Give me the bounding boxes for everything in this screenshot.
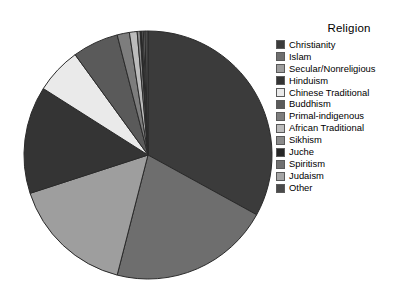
legend-swatch-icon	[276, 100, 285, 109]
legend-swatch-icon	[276, 124, 285, 133]
legend-item-list: ChristianityIslamSecular/NonreligiousHin…	[276, 39, 402, 194]
legend-item-label: Hinduism	[289, 76, 328, 86]
legend-item-label: Secular/Nonreligious	[289, 64, 376, 74]
legend-swatch-icon	[276, 160, 285, 169]
legend-item[interactable]: Primal-indigenous	[276, 111, 402, 123]
legend-item[interactable]: Sikhism	[276, 135, 402, 147]
legend-swatch-icon	[276, 112, 285, 121]
legend-swatch-icon	[276, 136, 285, 145]
legend-swatch-icon	[276, 172, 285, 181]
legend-item-label: Spiritism	[289, 159, 325, 169]
legend-title: Religion	[296, 22, 402, 34]
legend-item[interactable]: Chinese Traditional	[276, 87, 402, 99]
legend-item[interactable]: Buddhism	[276, 99, 402, 111]
legend-item[interactable]: Judaism	[276, 170, 402, 182]
legend-swatch-icon	[276, 52, 285, 61]
legend-item-label: Judaism	[289, 171, 324, 181]
legend-swatch-icon	[276, 76, 285, 85]
legend-item[interactable]: Juche	[276, 146, 402, 158]
chart-legend: Religion ChristianityIslamSecular/Nonrel…	[276, 22, 402, 194]
legend-swatch-icon	[276, 184, 285, 193]
legend-swatch-icon	[276, 88, 285, 97]
legend-item[interactable]: African Traditional	[276, 123, 402, 135]
legend-item-label: Christianity	[289, 40, 335, 50]
legend-swatch-icon	[276, 40, 285, 49]
legend-item-label: Other	[289, 183, 312, 193]
legend-item[interactable]: Spiritism	[276, 158, 402, 170]
legend-item[interactable]: Islam	[276, 51, 402, 63]
legend-item-label: Primal-indigenous	[289, 111, 364, 121]
pie-slice-group	[24, 31, 272, 279]
legend-item-label: Sikhism	[289, 135, 322, 145]
legend-item-label: Buddhism	[289, 99, 331, 109]
legend-item-label: Chinese Traditional	[289, 88, 369, 98]
legend-swatch-icon	[276, 64, 285, 73]
legend-item-label: Juche	[289, 147, 314, 157]
legend-item-label: African Traditional	[289, 123, 364, 133]
legend-swatch-icon	[276, 148, 285, 157]
legend-item[interactable]: Secular/Nonreligious	[276, 63, 402, 75]
legend-item-label: Islam	[289, 52, 311, 62]
pie-chart-figure: Religion ChristianityIslamSecular/Nonrel…	[0, 0, 403, 308]
legend-item[interactable]: Christianity	[276, 39, 402, 51]
legend-item[interactable]: Hinduism	[276, 75, 402, 87]
legend-item[interactable]: Other	[276, 182, 402, 194]
